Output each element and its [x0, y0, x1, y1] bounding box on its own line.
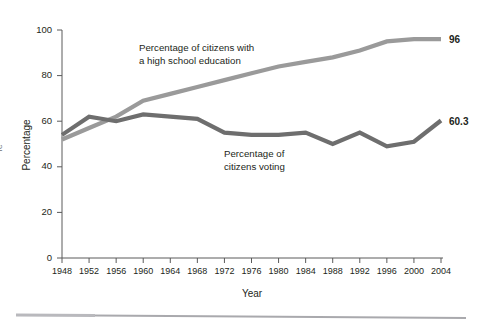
- x-tick-label-1976: 1976: [241, 266, 261, 276]
- voting-annotation-line1: Percentage of: [224, 148, 285, 159]
- x-tick-label-1960: 1960: [133, 266, 153, 276]
- x-tick-label-2000: 2000: [404, 266, 424, 276]
- education-annotation-line1: Percentage of citizens with: [139, 42, 254, 53]
- x-tick-label-1964: 1964: [160, 266, 180, 276]
- footer-rule-right: [95, 316, 466, 319]
- series-line-voting: [62, 114, 441, 146]
- x-tick-label-1952: 1952: [79, 266, 99, 276]
- footer-rule-left: [16, 315, 95, 316]
- x-tick-label-1984: 1984: [296, 266, 316, 276]
- y-tick-label-60: 60: [41, 115, 52, 126]
- y-tick-label-0: 0: [47, 252, 52, 263]
- end-label-voting: 60.3: [449, 116, 469, 127]
- x-tick-label-1956: 1956: [106, 266, 126, 276]
- y-tick-label-100: 100: [36, 24, 52, 35]
- x-tick-label-1972: 1972: [214, 266, 234, 276]
- series-line-education: [62, 39, 441, 139]
- x-axis-title: Year: [242, 288, 263, 299]
- education-annotation-line2: a high school education: [139, 55, 241, 66]
- x-tick-label-1968: 1968: [187, 266, 207, 276]
- y-axis-title: Percentage: [21, 119, 32, 171]
- y-tick-group: [57, 30, 62, 258]
- end-label-education: 96: [449, 34, 461, 45]
- cropped-edge-text: re: [0, 144, 4, 152]
- line-chart: 100 80 60 40 20 0 Percentage 19481952195…: [0, 0, 480, 327]
- x-tick-label-2004: 2004: [431, 266, 451, 276]
- y-tick-label-20: 20: [41, 206, 52, 217]
- x-tick-label-1996: 1996: [377, 266, 397, 276]
- y-tick-label-40: 40: [41, 160, 52, 171]
- x-tick-label-1992: 1992: [350, 266, 370, 276]
- x-tick-label-1980: 1980: [269, 266, 289, 276]
- figure-container: 100 80 60 40 20 0 Percentage 19481952195…: [0, 0, 480, 327]
- x-tick-group: 1948195219561960196419681972197619801984…: [52, 258, 451, 276]
- y-tick-label-80: 80: [41, 69, 52, 80]
- x-tick-label-1988: 1988: [323, 266, 343, 276]
- x-tick-label-1948: 1948: [52, 266, 72, 276]
- voting-annotation-line2: citizens voting: [224, 161, 285, 172]
